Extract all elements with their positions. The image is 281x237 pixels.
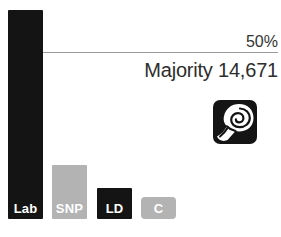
- bar-label-snp: SNP: [52, 202, 87, 215]
- election-bar-chart: Lab SNP LD C 50% Majority 14,671: [0, 0, 281, 237]
- bar-snp: SNP: [52, 165, 87, 219]
- labour-rose-icon: [213, 100, 257, 144]
- bar-lab: Lab: [8, 10, 43, 219]
- majority-label: Majority 14,671: [144, 59, 278, 81]
- bar-label-c: C: [141, 202, 176, 215]
- bar-ld: LD: [97, 188, 132, 219]
- fifty-percent-line: [43, 52, 278, 53]
- bar-c: C: [141, 197, 176, 219]
- bar-label-lab: Lab: [8, 202, 43, 215]
- fifty-percent-label: 50%: [246, 34, 278, 50]
- bar-label-ld: LD: [97, 202, 132, 215]
